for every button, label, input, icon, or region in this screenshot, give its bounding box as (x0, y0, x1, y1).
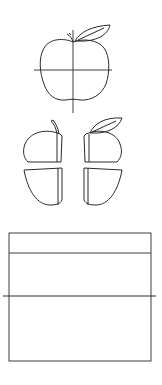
apple-leaf (75, 25, 110, 41)
tenths-grid (3, 233, 156, 361)
apple-pieces (24, 118, 122, 205)
apple-piece-bottom-right (84, 168, 122, 205)
fraction-diagram (0, 0, 162, 385)
grid-border (9, 233, 151, 361)
apple-piece-leaf (90, 118, 122, 133)
apple-piece-bottom-left (24, 168, 62, 205)
apple-piece-top-right (84, 131, 121, 162)
whole-apple (34, 25, 112, 113)
apple-piece-top-left (24, 131, 62, 162)
